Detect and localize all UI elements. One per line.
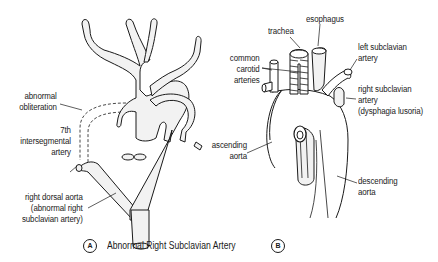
label-line: subclavian artery): [22, 214, 83, 225]
panel-b-badge: B: [271, 239, 285, 253]
label-descending-aorta: descending aorta: [358, 176, 398, 198]
label-trachea: trachea: [268, 26, 294, 37]
label-esophagus: esophagus: [306, 14, 344, 25]
label-line: aorta: [358, 187, 398, 198]
label-abnormal-obliteration: abnormal obliteration: [19, 91, 57, 113]
label-line: ascending: [212, 140, 247, 151]
label-line: descending: [358, 176, 398, 187]
label-line: obliteration: [19, 102, 57, 113]
label-line: (abnormal right: [22, 203, 83, 214]
label-line: aorta: [212, 151, 247, 162]
label-line: arteries: [230, 75, 260, 86]
label-line: artery: [20, 147, 71, 158]
label-right-dorsal-aorta: right dorsal aorta (abnormal right subcl…: [22, 192, 83, 225]
label-7th-intersegmental-artery: 7th intersegmental artery: [20, 125, 71, 158]
obliterated-segment: [80, 103, 126, 162]
label-left-subclavian-artery: left subclavian artery: [358, 42, 407, 64]
label-line: artery: [358, 53, 407, 64]
left-arch-branch: [144, 19, 157, 62]
right-subclavian: [334, 88, 344, 107]
panel-b-aortic-arch: [262, 48, 352, 218]
label-line: left subclavian: [358, 42, 407, 53]
label-line: right dorsal aorta: [22, 192, 83, 203]
label-ascending-aorta: ascending aorta: [212, 140, 247, 162]
label-line: carotid: [230, 64, 260, 75]
label-line: 7th: [20, 125, 71, 136]
label-line: intersegmental: [20, 136, 71, 147]
panel-a-vessel-diagram: [76, 19, 202, 249]
label-line: common: [230, 53, 260, 64]
panel-a-badge: A: [83, 239, 97, 253]
label-line: (dysphagia lusoria): [358, 106, 423, 117]
label-line: abnormal: [19, 91, 57, 102]
label-common-carotid-arteries: common carotid arteries: [230, 53, 260, 86]
label-right-subclavian-artery: right subclavian artery (dysphagia lusor…: [358, 84, 423, 117]
aortic-trunk: [82, 19, 189, 220]
label-line: right subclavian: [358, 84, 423, 95]
panel-a-caption: Abnormal Right Subclavian Artery: [107, 240, 236, 252]
label-line: artery: [358, 95, 423, 106]
